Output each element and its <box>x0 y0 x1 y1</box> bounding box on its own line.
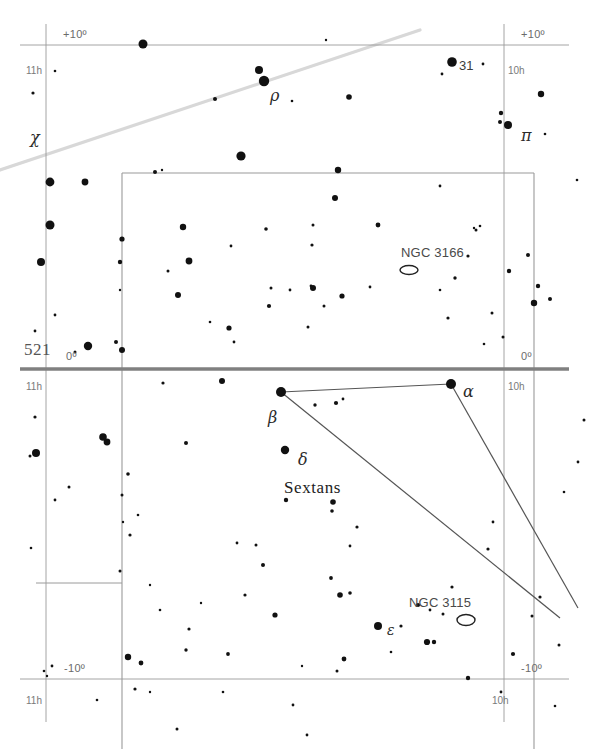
star-marker <box>390 651 393 654</box>
star-marker <box>536 284 540 288</box>
star-marker <box>447 57 457 67</box>
star-marker <box>292 704 295 707</box>
star-marker <box>200 602 202 604</box>
star-marker <box>54 499 57 502</box>
star-marker <box>236 151 245 160</box>
star-marker <box>270 287 273 290</box>
star-marker <box>466 676 470 680</box>
star-marker <box>82 179 89 186</box>
star-marker <box>499 111 503 115</box>
star-marker <box>84 342 92 350</box>
star-marker <box>126 472 130 476</box>
star-marker <box>125 654 131 660</box>
star-marker <box>104 439 111 446</box>
constellation-line-2 <box>451 384 578 608</box>
star-marker <box>486 547 489 550</box>
star-marker <box>442 613 445 616</box>
star-marker <box>243 593 246 596</box>
star-marker <box>43 670 46 673</box>
star-marker <box>349 545 352 548</box>
star-marker <box>272 612 277 617</box>
star-marker <box>153 170 157 174</box>
star-marker <box>281 446 289 454</box>
star-marker <box>439 185 442 188</box>
star-marker <box>577 461 580 464</box>
star-marker <box>264 227 268 231</box>
star-marker <box>466 254 469 257</box>
star-marker <box>504 121 512 129</box>
star-marker <box>32 449 40 457</box>
star-marker <box>355 525 358 528</box>
star-marker <box>161 169 163 171</box>
star-marker <box>68 486 71 489</box>
star-marker <box>538 595 541 598</box>
star-marker <box>161 381 164 384</box>
star-marker <box>284 498 288 502</box>
star-marker <box>374 622 382 630</box>
star-marker <box>342 657 347 662</box>
star-marker <box>558 644 561 647</box>
star-marker <box>432 640 436 644</box>
star-marker <box>335 167 341 173</box>
star-marker <box>226 652 230 656</box>
star-marker <box>424 639 430 645</box>
star-marker <box>119 347 125 353</box>
star-marker <box>310 285 313 288</box>
galaxy-symbol <box>457 615 475 626</box>
star-marker <box>54 314 57 317</box>
star-marker <box>184 441 188 445</box>
star-marker <box>336 670 339 673</box>
star-marker <box>330 509 334 513</box>
star-marker <box>329 576 333 580</box>
constellation-line-1 <box>281 384 451 392</box>
star-marker <box>255 66 263 74</box>
star-marker <box>230 245 233 248</box>
star-marker <box>332 195 338 201</box>
star-marker <box>159 609 162 612</box>
star-marker <box>236 542 239 545</box>
star-marker <box>312 224 315 227</box>
star-marker <box>226 325 231 330</box>
star-marker <box>323 305 326 308</box>
star-marker <box>576 179 579 182</box>
star-marker <box>233 341 236 344</box>
star-marker <box>342 398 345 401</box>
star-marker <box>439 289 442 292</box>
star-marker <box>337 592 343 598</box>
star-marker <box>500 691 503 694</box>
star-marker <box>492 521 495 524</box>
star-marker <box>339 293 344 298</box>
star-marker <box>473 227 475 229</box>
star-marker <box>313 403 316 406</box>
sky-canvas <box>0 0 589 749</box>
star-marker <box>483 343 486 346</box>
star-marker <box>276 387 286 397</box>
galaxy-symbol <box>400 266 418 275</box>
star-marker <box>446 379 456 389</box>
star-marker <box>184 648 187 651</box>
star-marker <box>429 609 432 612</box>
star-marker <box>416 603 420 607</box>
star-marker <box>175 292 181 298</box>
star-marker <box>114 340 118 344</box>
star-marker <box>502 336 505 339</box>
star-marker <box>209 321 212 324</box>
star-marker <box>176 728 179 731</box>
star-marker <box>54 70 57 73</box>
star-marker <box>531 300 537 306</box>
star-marker <box>334 401 338 405</box>
star-marker <box>267 304 271 308</box>
star-marker <box>511 652 515 656</box>
star-marker <box>255 544 258 547</box>
star-markers-group <box>29 39 586 737</box>
star-marker <box>186 258 193 265</box>
star-marker <box>37 258 45 266</box>
star-marker <box>376 223 381 228</box>
star-marker <box>34 330 37 333</box>
star-marker <box>74 351 77 354</box>
star-marker <box>563 491 566 494</box>
star-marker <box>118 260 122 264</box>
star-marker <box>330 499 336 505</box>
star-marker <box>507 269 511 273</box>
star-marker <box>259 76 269 86</box>
